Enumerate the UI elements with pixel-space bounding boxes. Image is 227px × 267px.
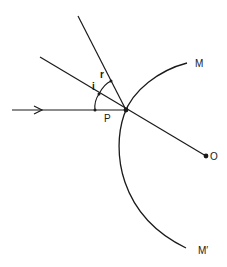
reflected-point-dot xyxy=(110,80,113,83)
angle-i-arc xyxy=(95,94,99,110)
angle-r-arc xyxy=(99,81,111,94)
label-r: r xyxy=(100,69,104,80)
normal-point-dot xyxy=(98,93,101,96)
reflected-ray xyxy=(78,16,126,110)
normal-line xyxy=(40,57,206,156)
label-m-prime: M′ xyxy=(198,245,208,256)
incidence-point-dot xyxy=(124,108,129,113)
incident-point-dot xyxy=(94,109,97,112)
centre-dot xyxy=(204,154,209,159)
label-p: P xyxy=(104,113,111,124)
mirror-arc xyxy=(119,63,187,248)
label-o: O xyxy=(210,151,218,162)
label-i: i xyxy=(92,81,95,92)
label-m: M xyxy=(195,58,203,69)
reflection-diagram: i r P M O M′ xyxy=(0,0,227,267)
